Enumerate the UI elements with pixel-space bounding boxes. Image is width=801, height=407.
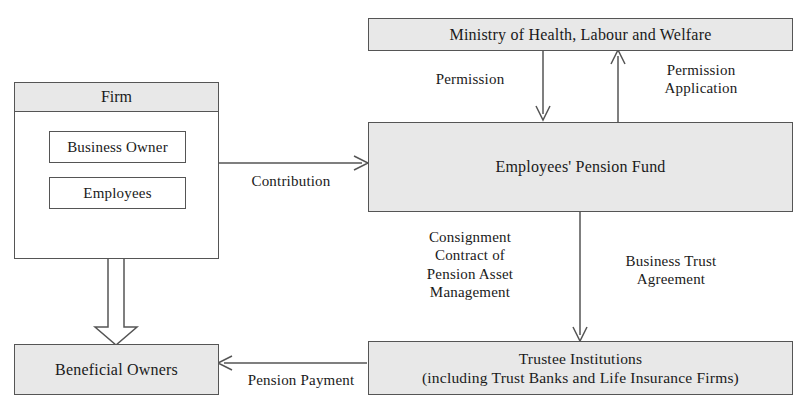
- edge-label-business-trust-agreement: Business Trust Agreement: [606, 252, 736, 289]
- node-label: Employees: [77, 184, 157, 203]
- node-label: Business Owner: [61, 138, 174, 157]
- edge-label-permission: Permission: [410, 70, 530, 88]
- edge-label-contribution: Contribution: [226, 172, 356, 190]
- node-beneficial-owners[interactable]: Beneficial Owners: [14, 344, 219, 395]
- node-employees[interactable]: Employees: [49, 177, 186, 209]
- edge-business-trust-agreement: [573, 212, 587, 341]
- edge-permission: [536, 50, 550, 120]
- node-firm[interactable]: Firm Business Owner Employees: [14, 82, 219, 259]
- node-label-line2: (including Trust Banks and Life Insuranc…: [416, 368, 745, 387]
- node-employees-pension-fund[interactable]: Employees' Pension Fund: [368, 122, 793, 212]
- node-trustee-institutions[interactable]: Trustee Institutions (including Trust Ba…: [368, 341, 793, 395]
- node-ministry-of-health-labour-and-welfare[interactable]: Ministry of Health, Labour and Welfare: [368, 18, 793, 51]
- node-label: Beneficial Owners: [49, 360, 184, 380]
- edge-permission-application: [611, 50, 625, 122]
- edge-label-consignment-contract: Consignment Contract of Pension Asset Ma…: [406, 228, 534, 301]
- edge-label-pension-payment: Pension Payment: [230, 371, 372, 389]
- node-firm-header: Firm: [15, 83, 218, 112]
- node-business-owner[interactable]: Business Owner: [49, 131, 186, 163]
- node-label: Firm: [95, 88, 138, 106]
- node-label: Employees' Pension Fund: [489, 157, 671, 177]
- diagram-canvas: Ministry of Health, Labour and Welfare F…: [0, 0, 801, 407]
- edge-label-permission-application: Permission Application: [636, 61, 766, 98]
- node-label: Ministry of Health, Labour and Welfare: [444, 25, 718, 45]
- node-label-line1: Trustee Institutions: [513, 349, 649, 368]
- edge-contribution: [219, 156, 368, 170]
- edge-pension-payment: [218, 356, 367, 370]
